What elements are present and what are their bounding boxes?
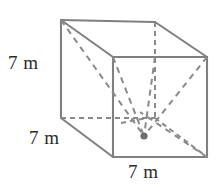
hidden-edge-bottom-right-receding	[155, 118, 207, 157]
dimension-label-depth: 7 m	[29, 127, 60, 149]
edge-bottom-left-receding	[61, 118, 113, 157]
edge-top-right-receding	[155, 22, 207, 57]
diagonal-back-top-right-to-apex	[144, 57, 155, 136]
dimension-label-width: 7 m	[128, 161, 159, 183]
diagonal-front-top-left-to-apex	[113, 57, 144, 136]
edge-top-left-receding	[61, 20, 113, 57]
edge-top-back	[61, 20, 155, 22]
dimension-label-height: 7 m	[8, 52, 39, 74]
figure-container: 7 m 7 m 7 m	[0, 0, 223, 192]
rectangular-prism-diagram	[0, 0, 223, 192]
apex-point-dot	[140, 132, 147, 139]
diagonal-front-bottom-right-to-base-center	[140, 112, 207, 157]
